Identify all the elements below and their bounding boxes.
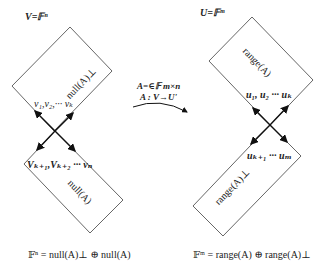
right-cross-arrow-2 (270, 106, 288, 125)
left-decomposition: 𝔽ⁿ = null(A)⊥ ⊕ null(A) (28, 250, 131, 260)
right-cross-arrow-4 (270, 125, 287, 142)
null-a-perp-region (12, 27, 112, 131)
right-bottom-vectors: uₖ₊₁ ··· uₘ (247, 151, 292, 161)
right-space-title: U=𝔽ᵐ (200, 8, 224, 18)
range-a-perp-region (193, 125, 301, 236)
right-top-vectors: u₁, u₂ ··· uₖ (246, 90, 292, 100)
left-cross-arrow-3 (37, 131, 55, 150)
right-cross-arrow-1 (253, 108, 270, 125)
right-decomposition: 𝔽ᵐ = range(A) ⊕ range(A)⊥ (193, 250, 311, 260)
right-cross-arrow-3 (251, 125, 270, 144)
left-space-title: V=𝔽ⁿ (25, 12, 48, 22)
map-label: A : V→U' (140, 93, 177, 102)
left-bottom-vectors: Vₖ₊₁,Vₖ₊₂ ··· vₙ (27, 160, 92, 170)
matrix-label: A=∈𝔽 m×n (137, 82, 180, 91)
mapping-arrow (133, 103, 187, 112)
left-cross-arrow-2 (55, 113, 73, 131)
left-top-vectors: v₁,v₂,··· vₖ (34, 99, 73, 109)
diagram-canvas (0, 0, 327, 268)
left-cross-arrow-1 (35, 111, 55, 131)
left-cross-arrow-4 (55, 131, 75, 151)
